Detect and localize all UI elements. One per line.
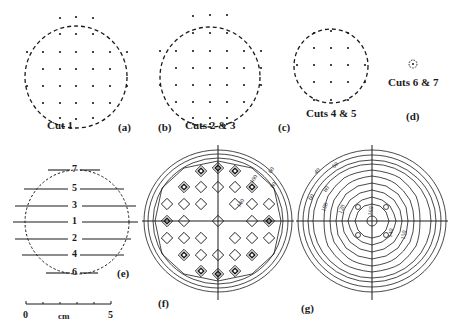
panel-c-tag: (c) bbox=[278, 121, 290, 133]
panel-a-caption: Cut 1 bbox=[47, 119, 73, 131]
panel-d-caption: Cuts 6 & 7 bbox=[388, 76, 438, 88]
panel-c-drawing bbox=[294, 29, 368, 103]
scale-unit: cm bbox=[58, 311, 70, 321]
panel-a-drawing bbox=[25, 16, 128, 128]
panel-g-tag: (g) bbox=[301, 302, 314, 314]
panel-a-tag: (a) bbox=[118, 121, 131, 133]
cut-line-label: 3 bbox=[72, 199, 77, 210]
panel-d-drawing bbox=[409, 60, 417, 68]
cut-line-label: 4 bbox=[72, 248, 77, 259]
cut-line-label: 1 bbox=[72, 215, 77, 226]
panel-b-drawing bbox=[159, 14, 262, 127]
scale-start: 0 bbox=[23, 309, 28, 320]
scale-bar-drawing bbox=[26, 301, 111, 304]
cut-line-label: 7 bbox=[72, 163, 77, 174]
cut-line-label: 5 bbox=[72, 182, 77, 193]
panel-b-caption: Cuts 2 & 3 bbox=[185, 119, 235, 131]
scale-end: 5 bbox=[108, 309, 113, 320]
panel-c-caption: Cuts 4 & 5 bbox=[306, 107, 356, 119]
panel-e-tag: (e) bbox=[117, 267, 129, 279]
panel-d-tag: (d) bbox=[406, 110, 419, 122]
cut-line-label: 2 bbox=[72, 232, 77, 243]
figure-canvas bbox=[0, 0, 453, 331]
panel-f-tag: (f) bbox=[158, 297, 169, 309]
panel-b-tag: (b) bbox=[158, 121, 171, 133]
cut-line-label: 6 bbox=[72, 266, 77, 277]
